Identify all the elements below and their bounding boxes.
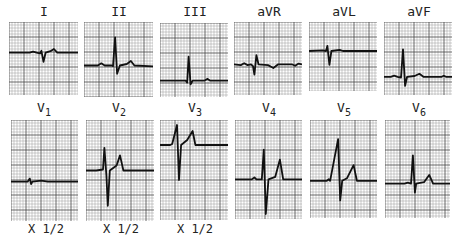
- lead-label: V3: [160, 100, 230, 118]
- ecg-grid: [310, 120, 377, 218]
- lead-label-subscript: 2: [120, 107, 126, 118]
- lead-panel-avr: [234, 22, 302, 95]
- lead-label-subscript: 6: [420, 107, 426, 118]
- lead-label: II: [84, 4, 154, 19]
- lead-panel-v3: [160, 120, 228, 220]
- ecg-grid: [84, 22, 153, 97]
- lead-label: V2: [84, 100, 154, 118]
- lead-panel-avf: [384, 22, 452, 95]
- ecg-grid: [235, 120, 302, 219]
- ecg-grid: [86, 120, 154, 221]
- lead-panel-iii: [160, 23, 228, 97]
- ecg-grid: [384, 22, 452, 95]
- lead-panel-avl: [309, 22, 377, 91]
- ecg-grid: [234, 22, 302, 95]
- lead-label: V6: [384, 100, 454, 118]
- lead-label-subscript: 4: [270, 107, 276, 118]
- ecg-grid: [11, 120, 78, 221]
- scale-note: X 1/2: [160, 222, 230, 236]
- ecg-trace: [309, 46, 377, 65]
- scale-note: X 1/2: [86, 222, 156, 236]
- ecg-grid: [160, 23, 228, 97]
- lead-label: aVR: [234, 4, 304, 19]
- ecg-grid: [160, 120, 228, 220]
- lead-panel-v1: [11, 120, 78, 221]
- lead-label: V4: [234, 100, 304, 118]
- lead-panel-v5: [310, 120, 377, 218]
- lead-label: aVF: [384, 4, 454, 19]
- lead-label-subscript: 1: [45, 107, 51, 118]
- lead-label: aVL: [309, 4, 379, 19]
- ecg-trace: [160, 57, 228, 85]
- ecg-grid: [309, 22, 377, 91]
- lead-label-subscript: 3: [196, 107, 202, 118]
- scale-note: X 1/2: [11, 222, 81, 236]
- lead-panel-v2: [86, 120, 154, 221]
- lead-panel-i: [9, 22, 78, 95]
- lead-label-subscript: 5: [345, 107, 351, 118]
- lead-panel-v6: [385, 120, 450, 218]
- lead-panel-v4: [235, 120, 302, 219]
- ecg-trace: [9, 49, 78, 62]
- lead-panel-ii: [84, 22, 153, 97]
- ecg-grid: [385, 120, 450, 218]
- ecg-grid: [9, 22, 78, 95]
- lead-label: I: [9, 4, 79, 19]
- lead-label: III: [160, 4, 230, 19]
- lead-label: V5: [309, 100, 379, 118]
- lead-label: V1: [9, 100, 79, 118]
- ecg-trace: [160, 125, 228, 180]
